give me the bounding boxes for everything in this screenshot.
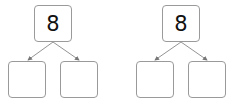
whole-value: 8 [174, 12, 187, 36]
number-bond-2-whole-box: 8 [162, 5, 200, 42]
whole-value: 8 [46, 12, 59, 36]
number-bond-1-whole-box: 8 [34, 5, 72, 42]
number-bond-1-part-left-box[interactable] [8, 61, 46, 98]
number-bond-2-part-left-box[interactable] [136, 61, 174, 98]
number-bond-1-part-right-box[interactable] [60, 61, 98, 98]
number-bond-2-part-right-box[interactable] [188, 61, 226, 98]
